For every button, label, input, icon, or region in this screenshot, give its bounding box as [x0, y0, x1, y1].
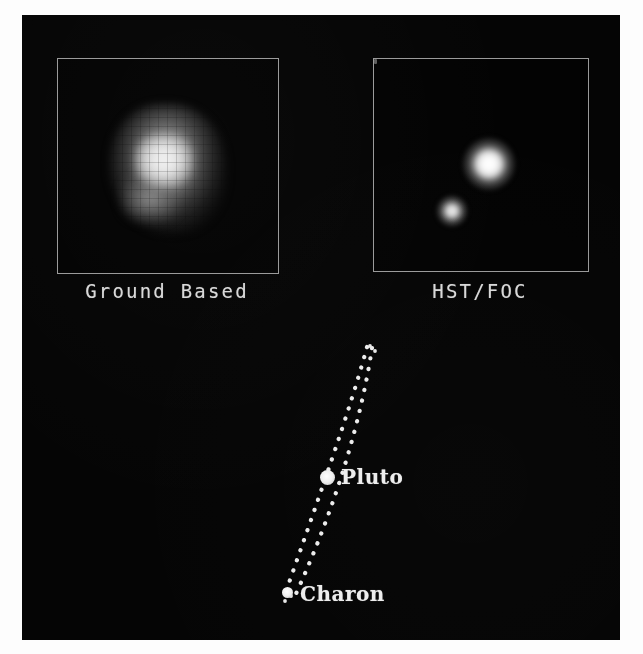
- figure-page: Ground Based HST/FOC P: [0, 0, 643, 654]
- orbit-charon-marker: [282, 587, 293, 598]
- orbit-base-dot: [283, 599, 287, 603]
- panel-ground-based-label: Ground Based: [56, 280, 278, 302]
- orbit-pluto-label: Pluto: [341, 465, 403, 489]
- panel-hst-foc-label: HST/FOC: [373, 280, 587, 302]
- scanned-figure-plate: Ground Based HST/FOC P: [22, 15, 620, 640]
- orbit-apex-dot: [368, 344, 372, 348]
- background-speck: [374, 59, 377, 64]
- hst-charon-point-source: [436, 195, 468, 227]
- panel-hst-foc: [373, 58, 589, 272]
- panel-ground-based: [57, 58, 279, 274]
- ground-based-blob: [110, 105, 226, 233]
- orbit-apex-dot: [373, 349, 377, 353]
- orbit-pluto-marker: [320, 470, 335, 485]
- hst-pluto-point-source: [462, 137, 516, 191]
- pixelation-grid: [104, 99, 232, 239]
- orbit-charon-label: Charon: [300, 582, 385, 606]
